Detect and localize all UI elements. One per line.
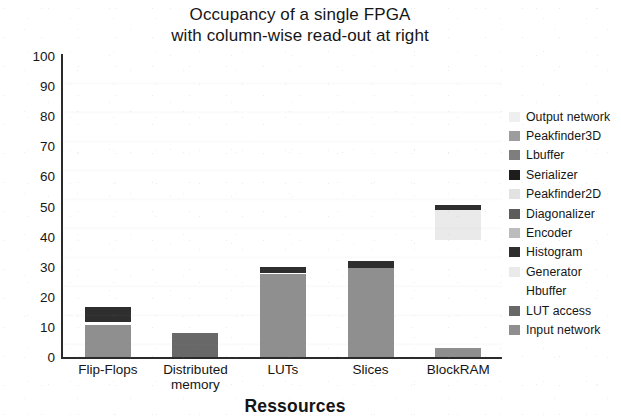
legend-swatch-icon <box>509 131 520 141</box>
legend-item[interactable]: Generator <box>509 262 621 281</box>
y-axis-tick-label: 70 <box>40 139 55 154</box>
bar-segment <box>348 268 394 357</box>
legend-item[interactable]: Input network <box>509 320 621 339</box>
bar-segment <box>85 322 131 325</box>
x-axis-tick-label-line: memory <box>140 377 250 392</box>
chart-title-line-2: with column-wise read-out at right <box>90 25 510 46</box>
legend-item[interactable]: Peakfinder2D <box>509 185 621 204</box>
bar-segment <box>260 273 306 275</box>
legend-item-label: Peakfinder2D <box>526 187 601 201</box>
x-axis-tick-label-line: BlockRAM <box>403 362 513 377</box>
x-axis-tick-label: BlockRAM <box>403 362 513 377</box>
chart-title: Occupancy of a single FPGA with column-w… <box>90 4 510 46</box>
legend-item-label: Output network <box>526 110 610 124</box>
legend-item[interactable]: Hbuffer <box>509 282 621 301</box>
legend-item[interactable]: Output network <box>509 107 621 126</box>
legend-swatch-icon <box>509 228 520 238</box>
legend-item-label: Histogram <box>526 245 582 259</box>
y-axis-tick-label: 10 <box>40 319 55 334</box>
legend-item[interactable]: Peakfinder3D <box>509 126 621 145</box>
chart-figure: Occupancy of a single FPGA with column-w… <box>0 0 621 417</box>
legend-swatch-icon <box>509 189 520 199</box>
legend-item-label: LUT access <box>526 304 591 318</box>
y-axis-tick-label: 100 <box>32 49 55 64</box>
bar-stack <box>435 56 481 357</box>
y-axis-tick-label: 80 <box>40 109 55 124</box>
legend-swatch-icon <box>509 267 520 277</box>
bar-segment <box>435 205 481 210</box>
bar-segment <box>172 333 218 357</box>
bar-stack <box>348 56 394 357</box>
bar-segment <box>85 307 131 322</box>
legend-swatch-icon <box>509 170 520 180</box>
chart-legend: Output networkPeakfinder3DLbufferSeriali… <box>509 107 621 340</box>
x-axis-title: Ressources <box>165 396 425 417</box>
legend-item[interactable]: LUT access <box>509 301 621 320</box>
plot-area: 1009080706050403020100 <box>62 56 500 357</box>
legend-swatch-icon <box>509 112 520 122</box>
legend-item-label: Peakfinder3D <box>526 129 601 143</box>
legend-swatch-icon <box>509 209 520 219</box>
bar-segment <box>348 261 394 269</box>
legend-item[interactable]: Histogram <box>509 243 621 262</box>
legend-item-label: Hbuffer <box>526 284 566 298</box>
bar-stack <box>85 56 131 357</box>
legend-swatch-icon <box>509 247 520 257</box>
y-axis-tick-label: 40 <box>40 229 55 244</box>
bar-segment <box>435 210 481 240</box>
x-axis-line <box>61 357 502 359</box>
legend-item-label: Lbuffer <box>526 148 564 162</box>
bar-stack <box>260 56 306 357</box>
chart-title-line-1: Occupancy of a single FPGA <box>90 4 510 25</box>
y-axis-tick-label: 60 <box>40 169 55 184</box>
legend-item[interactable]: Encoder <box>509 223 621 242</box>
legend-item[interactable]: Serializer <box>509 165 621 184</box>
legend-swatch-icon <box>509 306 520 316</box>
legend-item[interactable]: Lbuffer <box>509 146 621 165</box>
legend-item[interactable]: Diagonalizer <box>509 204 621 223</box>
bar-segment <box>85 325 131 357</box>
legend-item-label: Generator <box>526 265 582 279</box>
legend-item-label: Serializer <box>526 168 578 182</box>
legend-item-label: Encoder <box>526 226 572 240</box>
y-axis-tick-label: 90 <box>40 79 55 94</box>
bar-segment <box>435 240 481 348</box>
y-axis-tick-label: 30 <box>40 259 55 274</box>
legend-item-label: Input network <box>526 323 600 337</box>
y-axis-tick-label: 50 <box>40 199 55 214</box>
bar-segment <box>260 274 306 357</box>
legend-item-label: Diagonalizer <box>526 207 595 221</box>
legend-swatch-icon <box>509 150 520 160</box>
y-axis-tick-label: 20 <box>40 289 55 304</box>
bar-segment <box>435 348 481 357</box>
legend-swatch-icon <box>509 325 520 335</box>
bar-stack <box>172 56 218 357</box>
bar-segment <box>260 267 306 273</box>
legend-swatch-icon <box>509 286 520 296</box>
